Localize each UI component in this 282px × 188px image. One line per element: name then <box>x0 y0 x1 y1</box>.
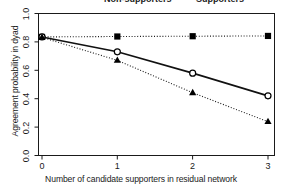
data-point <box>265 33 271 39</box>
plot-frame <box>39 14 275 156</box>
x-axis-title: Number of candidate supporters in residu… <box>0 174 282 184</box>
ytick-label-5: 1.0 <box>21 3 31 25</box>
data-point <box>190 70 196 76</box>
xtick-label-1: 1 <box>107 161 127 171</box>
data-point <box>265 93 271 99</box>
series-1-line <box>42 37 268 96</box>
series-2-line <box>42 37 268 121</box>
y-axis-ticks <box>35 14 39 156</box>
xtick-label-2: 2 <box>183 161 203 171</box>
ytick-label-4: 0.8 <box>21 31 31 53</box>
series-0-line <box>42 36 268 37</box>
ytick-label-1: 0.2 <box>21 117 31 139</box>
plot-area <box>0 0 282 188</box>
data-point <box>114 49 120 55</box>
ytick-label-0: 0.0 <box>21 145 31 167</box>
chart-figure: Non-supporters Supporters <box>0 0 282 188</box>
data-point <box>190 33 196 39</box>
y-axis-title: Agreement probability in dyad <box>10 6 20 156</box>
series-2-markers <box>38 33 271 124</box>
ytick-label-3: 0.6 <box>21 60 31 82</box>
ytick-label-2: 0.4 <box>21 88 31 110</box>
xtick-label-3: 3 <box>258 161 278 171</box>
xtick-label-0: 0 <box>32 161 52 171</box>
series-supporters <box>38 33 271 124</box>
data-point <box>114 33 120 39</box>
series-non-supporters <box>39 33 271 40</box>
series-mixed-dyads <box>39 34 271 99</box>
data-point <box>189 89 196 95</box>
x-axis-ticks <box>42 156 268 160</box>
